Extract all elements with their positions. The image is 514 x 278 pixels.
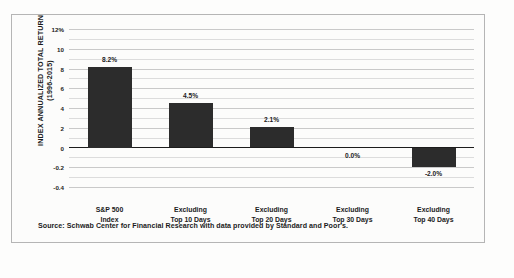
gridline-minor <box>69 59 474 60</box>
y-axis-tick-label: 10 <box>24 45 68 52</box>
bar-value-label: 4.5% <box>183 92 198 99</box>
bar-chart: INDEX ANNUALIZED TOTAL RETURN (1996-2015… <box>12 15 484 199</box>
gridline-major <box>69 29 474 30</box>
gridline-major <box>69 167 474 168</box>
bar[interactable] <box>250 127 294 148</box>
y-axis-tick-label: 6 <box>24 85 68 92</box>
y-axis-title-line-2: (1996-2015) <box>46 0 55 160</box>
source-note: Source: Schwab Center for Financial Rese… <box>38 222 348 230</box>
y-axis-tick-label: 2 <box>24 124 68 131</box>
x-axis-category-line: Excluding <box>332 205 372 215</box>
x-axis-category-label: ExcludingTop 40 Days <box>413 205 453 224</box>
x-axis-category-line: Excluding <box>251 205 291 215</box>
chart-frame: INDEX ANNUALIZED TOTAL RETURN (1996-2015… <box>11 14 485 243</box>
chart-page: INDEX ANNUALIZED TOTAL RETURN (1996-2015… <box>0 0 514 278</box>
bar[interactable] <box>169 103 213 147</box>
x-axis-category-line: Excluding <box>413 205 453 215</box>
bar-value-label: 2.1% <box>264 116 279 123</box>
y-axis-title-line-1: INDEX ANNUALIZED TOTAL RETURN <box>37 0 46 160</box>
y-axis-tick-label: -0.2 <box>24 164 68 171</box>
gridline-minor <box>69 39 474 40</box>
bar-value-label: -2.0% <box>425 170 442 177</box>
y-axis-title: INDEX ANNUALIZED TOTAL RETURN (1996-2015… <box>37 0 56 160</box>
y-axis-tick-label: 4 <box>24 105 68 112</box>
gridline-minor <box>69 177 474 178</box>
x-axis-category-line: Excluding <box>170 205 210 215</box>
bar-value-label: 8.2% <box>102 56 117 63</box>
gridline-major <box>69 49 474 50</box>
y-axis-tick-label: 12% <box>24 26 68 33</box>
bar[interactable] <box>412 148 456 168</box>
x-axis-category-line: S&P 500 <box>96 205 123 215</box>
bar[interactable] <box>88 67 132 148</box>
plot-area: 12%1086420-0.2-0.48.2%S&P 500Index4.5%Ex… <box>69 29 474 187</box>
bar-value-label: 0.0% <box>345 152 360 159</box>
gridline-major <box>69 187 474 188</box>
y-axis-tick-label: 0 <box>24 144 68 151</box>
y-axis-tick-label: 8 <box>24 65 68 72</box>
x-axis-category-line: Top 40 Days <box>413 215 453 225</box>
y-axis-tick-label: -0.4 <box>24 184 68 191</box>
